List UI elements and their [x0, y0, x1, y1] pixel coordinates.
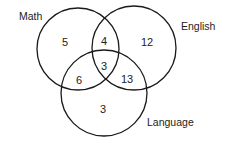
region-math-language: 6: [76, 74, 82, 86]
region-english-only: 12: [141, 36, 153, 48]
english-circle: [92, 6, 176, 90]
region-english-language: 13: [121, 73, 133, 85]
region-math-only: 5: [62, 36, 68, 48]
english-label: English: [181, 20, 216, 32]
region-all-three: 3: [101, 60, 107, 72]
region-math-english: 4: [101, 35, 107, 47]
region-language-only: 3: [100, 103, 106, 115]
language-label: Language: [147, 116, 194, 128]
venn-diagram: Math English Language 5 4 12 3 6 13 3: [0, 0, 230, 142]
math-label: Math: [19, 10, 43, 22]
